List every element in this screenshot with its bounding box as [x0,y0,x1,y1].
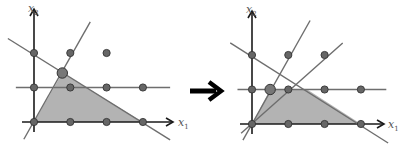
transition-arrow [190,82,221,100]
lattice-point [67,84,74,91]
lattice-point [67,49,74,56]
x1-axis-label: x1 [178,116,189,131]
x1-axis-label: x1 [388,118,399,133]
x2-subscript: 2 [252,10,256,18]
lattice-point [321,120,328,127]
lp-optimum-vertex [265,84,275,94]
lattice-point [285,120,292,127]
lattice-point [139,84,146,91]
panel-after: x1x2 [230,3,398,143]
lattice-point [103,84,110,91]
lattice-point [67,118,74,125]
lattice-point [357,120,364,127]
lattice-point [321,86,328,93]
x1-subscript: 1 [394,125,398,133]
lattice-point [248,86,255,93]
lp-optimum-vertex [57,68,67,78]
lattice-point [357,86,364,93]
lattice-point [139,118,146,125]
lattice-point [248,120,255,127]
lattice-point [103,118,110,125]
lattice-point [30,49,37,56]
feasible-region [34,73,143,122]
lattice-point [30,118,37,125]
x1-subscript: 1 [184,123,188,131]
lattice-point [248,51,255,58]
lattice-point [30,84,37,91]
lattice-point [285,86,292,93]
x2-axis-label: x2 [28,2,39,17]
x2-axis-label: x2 [246,3,257,18]
lattice-point [321,51,328,58]
x2-subscript: 2 [34,9,38,17]
diagram-canvas: x1x2 x1x2 [0,0,407,151]
lattice-point [285,51,292,58]
lattice-point [103,49,110,56]
panel-before: x1x2 [8,2,189,140]
